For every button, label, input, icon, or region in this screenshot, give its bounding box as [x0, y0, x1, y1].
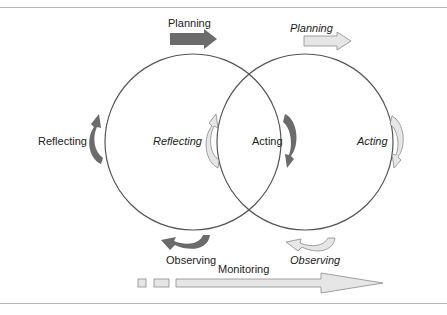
- observing-arrow-outline-icon: [286, 238, 335, 251]
- cycle-1-acting-label: Acting: [252, 135, 283, 148]
- cycle-2-observing-label: Observing: [290, 254, 340, 267]
- cycle-2-acting-label: Acting: [357, 135, 388, 148]
- reflecting-arrow-icon: [89, 114, 103, 164]
- monitoring-dash-1-icon: [138, 279, 146, 287]
- cycle-2-reflecting-label: Reflecting: [153, 135, 202, 148]
- cycle-2-planning-label: Planning: [290, 22, 333, 35]
- acting-arrow-outline-icon: [390, 116, 403, 168]
- planning-arrow-icon: [170, 29, 217, 49]
- cycle-1-planning-label: Planning: [168, 17, 211, 30]
- cycle-1-reflecting-label: Reflecting: [38, 135, 87, 148]
- acting-arrow-icon: [283, 114, 297, 168]
- monitoring-arrow-icon: [176, 273, 383, 293]
- cycle-1-observing-label: Observing: [166, 254, 216, 267]
- monitoring-dash-2-icon: [154, 279, 169, 287]
- monitoring-label: Monitoring: [218, 263, 269, 276]
- observing-arrow-icon: [161, 235, 210, 250]
